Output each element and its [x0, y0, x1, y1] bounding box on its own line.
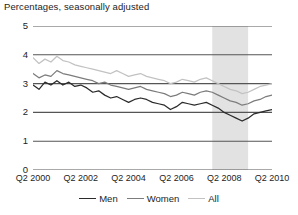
y-tick-label: 1 — [6, 135, 28, 146]
legend-label: All — [208, 193, 219, 204]
recession-band-group — [212, 26, 248, 170]
plot-area — [33, 26, 272, 170]
chart-legend: MenWomenAll — [0, 191, 298, 205]
legend-swatch-all — [188, 198, 205, 199]
legend-item: Men — [79, 193, 117, 204]
x-tick-label: Q2 2006 — [153, 173, 199, 183]
x-tick-label: Q2 2008 — [201, 173, 247, 183]
x-tick-label: Q2 2004 — [106, 173, 152, 183]
x-axis-labels: Q2 2000Q2 2002Q2 2004Q2 2006Q2 2008Q2 20… — [0, 173, 298, 186]
x-tick-label: Q2 2010 — [249, 173, 295, 183]
x-tick-label: Q2 2000 — [10, 173, 56, 183]
y-tick-label: 5 — [6, 20, 28, 31]
legend-label: Men — [99, 193, 117, 204]
y-tick-label: 3 — [6, 78, 28, 89]
legend-item: Women — [127, 193, 180, 204]
recession-band — [212, 26, 248, 170]
legend-item: All — [188, 193, 219, 204]
y-tick-label: 2 — [6, 106, 28, 117]
legend-swatch-men — [79, 198, 96, 199]
chart-container: Percentages, seasonally adjusted 543210 … — [0, 0, 298, 215]
chart-title: Percentages, seasonally adjusted — [4, 1, 149, 12]
legend-label: Women — [147, 193, 180, 204]
y-tick-label: 4 — [6, 49, 28, 60]
legend-swatch-women — [127, 198, 144, 199]
line-chart-svg — [33, 26, 272, 170]
x-tick-label: Q2 2002 — [58, 173, 104, 183]
